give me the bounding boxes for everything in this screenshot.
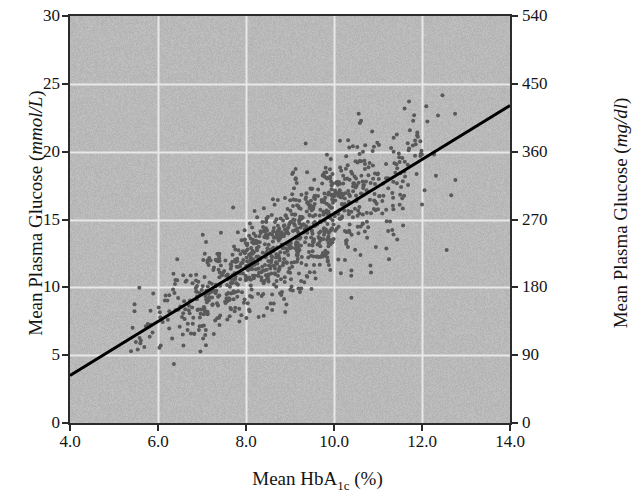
x-axis-title-prefix: Mean HbA <box>252 468 337 489</box>
scatter-plot-figure: 051015202530 090180270360450540 4.06.08.… <box>0 0 635 501</box>
y-axis-right-title: Mean Plasma Glucose (mg/dl) <box>610 13 632 413</box>
y-axis-right-tick-label: 450 <box>522 75 582 92</box>
x-axis-title-subscript: 1c <box>337 478 349 493</box>
y-axis-left-tickmark <box>62 286 68 288</box>
y-axis-left-title: Mean Plasma Glucose (mmol/L) <box>25 13 47 413</box>
y-axis-right-tickmark <box>512 286 518 288</box>
y-axis-left-tickmark <box>62 15 68 17</box>
y-axis-left-tickmark <box>62 219 68 221</box>
x-axis-tickmark <box>157 425 159 431</box>
x-axis-title: Mean HbA1c (%) <box>0 468 635 494</box>
y-axis-right-tickmark <box>512 219 518 221</box>
y-axis-right-title-prefix: Mean Plasma Glucose ( <box>610 147 631 328</box>
y-axis-left-tickmark <box>62 151 68 153</box>
y-axis-right-tick-label: 540 <box>522 7 582 24</box>
y-axis-right-tick-label: 270 <box>522 211 582 228</box>
y-axis-right-title-suffix: ) <box>610 98 631 104</box>
x-axis-tick-label: 8.0 <box>216 433 276 450</box>
scatter-canvas <box>70 16 510 423</box>
y-axis-right-tick-label: 360 <box>522 143 582 160</box>
y-axis-right-tick-label: 0 <box>522 414 582 431</box>
x-axis-tick-label: 14.0 <box>480 433 540 450</box>
y-axis-right-tick-label: 180 <box>522 278 582 295</box>
x-axis-tickmark <box>245 425 247 431</box>
x-axis-tickmark <box>509 425 511 431</box>
x-axis-tickmark <box>333 425 335 431</box>
x-axis-title-suffix: (%) <box>350 468 383 489</box>
y-axis-right-tickmark <box>512 422 518 424</box>
x-axis-tickmark <box>69 425 71 431</box>
y-axis-left-tick-label: 0 <box>14 414 60 431</box>
y-axis-right-title-units: mg/dl <box>610 104 631 147</box>
y-axis-left-title-units: mmol/L <box>25 97 46 155</box>
y-axis-right-tick-label: 90 <box>522 346 582 363</box>
y-axis-left-title-suffix: ) <box>25 90 46 96</box>
x-axis-tick-label: 12.0 <box>392 433 452 450</box>
y-axis-left-tickmark <box>62 422 68 424</box>
y-axis-right-tickmark <box>512 83 518 85</box>
x-axis-tick-label: 10.0 <box>304 433 364 450</box>
y-axis-right-tickmark <box>512 354 518 356</box>
y-axis-left-title-prefix: Mean Plasma Glucose ( <box>25 155 46 336</box>
y-axis-right-tickmark <box>512 151 518 153</box>
y-axis-right-tickmark <box>512 15 518 17</box>
x-axis-tick-label: 6.0 <box>128 433 188 450</box>
plot-area <box>68 14 512 425</box>
y-axis-left-tickmark <box>62 354 68 356</box>
x-axis-tick-label: 4.0 <box>40 433 100 450</box>
x-axis-tickmark <box>421 425 423 431</box>
y-axis-left-tickmark <box>62 83 68 85</box>
